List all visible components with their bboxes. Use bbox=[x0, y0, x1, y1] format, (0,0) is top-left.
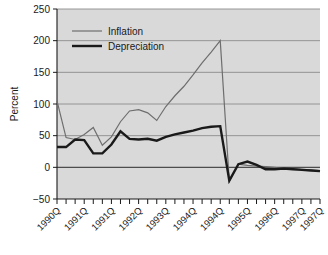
x-axis-tick-label: 1992Q bbox=[116, 205, 144, 233]
x-axis-tick-label: 1991Q bbox=[89, 205, 117, 233]
x-axis-tick-labels: 1990Q1991Q1991Q1992Q1993Q1994Q1994Q1995Q… bbox=[34, 205, 325, 233]
y-axis-tick-label: 0 bbox=[44, 162, 50, 173]
legend-label-depreciation: Depreciation bbox=[108, 41, 164, 52]
x-axis-tick-label: 1994Q bbox=[170, 205, 198, 233]
svg-text:Percent: Percent bbox=[9, 87, 20, 122]
x-axis-tick-label: 1993Q bbox=[143, 205, 171, 233]
y-axis-tick-label: −50 bbox=[33, 194, 50, 205]
y-axis-tick-label: 100 bbox=[33, 99, 50, 110]
x-axis-tick-label: 1996Q bbox=[252, 205, 280, 233]
y-axis-tick-label: 200 bbox=[33, 35, 50, 46]
line-chart: −50050100150200250 1990Q1991Q1991Q1992Q1… bbox=[0, 0, 328, 255]
chart-figure: −50050100150200250 1990Q1991Q1991Q1992Q1… bbox=[0, 0, 328, 255]
y-axis-ticks bbox=[53, 9, 57, 199]
x-axis-ticks bbox=[57, 199, 320, 204]
legend-label-inflation: Inflation bbox=[108, 26, 143, 37]
y-axis-title: Percent bbox=[9, 87, 20, 122]
x-axis-tick-label: 1991Q bbox=[62, 205, 90, 233]
y-axis-tick-labels: −50050100150200250 bbox=[33, 4, 50, 205]
y-axis-tick-label: 50 bbox=[39, 130, 51, 141]
y-axis-tick-label: 150 bbox=[33, 67, 50, 78]
y-axis-tick-label: 250 bbox=[33, 4, 50, 15]
x-axis-tick-label: 1990Q bbox=[34, 205, 62, 233]
x-axis-tick-label: 1995Q bbox=[225, 205, 253, 233]
x-axis-tick-label: 1994Q bbox=[198, 205, 226, 233]
